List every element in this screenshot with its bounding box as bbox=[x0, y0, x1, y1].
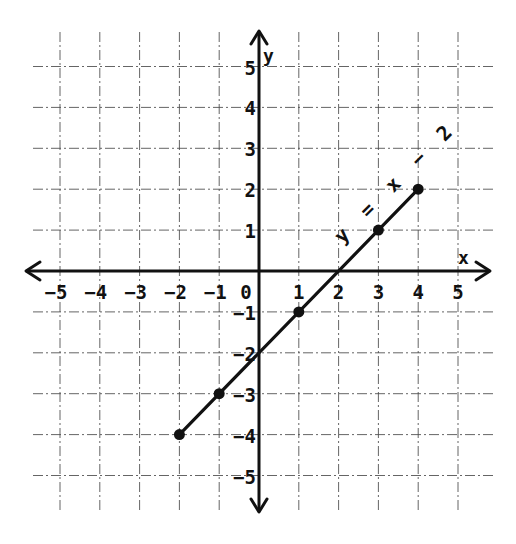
y-tick-label: −1 bbox=[233, 302, 256, 324]
y-axis-label: y bbox=[263, 45, 274, 66]
y-tick-label: −5 bbox=[233, 466, 256, 488]
y-tick-label: 1 bbox=[245, 220, 256, 242]
x-tick-label: −5 bbox=[45, 281, 68, 303]
data-point bbox=[214, 388, 225, 399]
data-point bbox=[293, 306, 304, 317]
y-tick-label: 5 bbox=[245, 57, 256, 79]
axes: x y bbox=[26, 31, 490, 512]
y-tick-label: −3 bbox=[233, 384, 256, 406]
x-tick-label: −2 bbox=[164, 281, 187, 303]
x-tick-label: −4 bbox=[84, 281, 107, 303]
y-tick-label: 2 bbox=[245, 179, 256, 201]
x-tick-label: 5 bbox=[452, 281, 463, 303]
data-point bbox=[373, 225, 384, 236]
x-tick-label: −3 bbox=[124, 281, 147, 303]
x-tick-label: −1 bbox=[204, 281, 227, 303]
x-tick-label: 3 bbox=[373, 281, 384, 303]
coordinate-plane: x y −5−4−3−2−1012345−5−4−3−2−112345 y = … bbox=[0, 0, 516, 544]
x-tick-label: 1 bbox=[293, 281, 304, 303]
y-tick-label: 3 bbox=[245, 138, 256, 160]
equation-label: y = x − 2 bbox=[329, 116, 461, 248]
x-tick-label: 0 bbox=[240, 281, 251, 303]
x-axis-label: x bbox=[458, 247, 469, 268]
data-point bbox=[174, 429, 185, 440]
x-tick-label: 4 bbox=[412, 281, 423, 303]
data-point bbox=[413, 184, 424, 195]
y-tick-label: −4 bbox=[233, 425, 256, 447]
y-tick-label: 4 bbox=[245, 97, 256, 119]
x-tick-label: 2 bbox=[333, 281, 344, 303]
